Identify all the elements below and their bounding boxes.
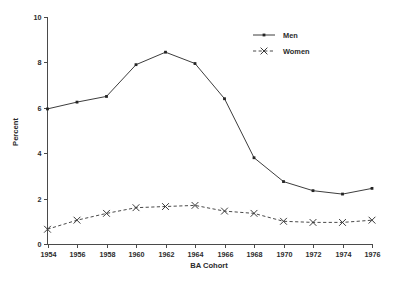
x-tick-label: 1964 — [188, 250, 204, 259]
series-line-men — [48, 52, 373, 194]
x-tick-label: 1966 — [218, 250, 234, 259]
x-tick-label: 1974 — [336, 250, 352, 259]
y-tick-label: 8 — [38, 58, 42, 67]
x-axis-title: BA Cohort — [190, 261, 228, 270]
y-axis-title: Percent — [11, 118, 20, 146]
y-tick-label: 10 — [34, 13, 42, 22]
y-tick-label: 0 — [38, 240, 42, 249]
data-point-marker — [76, 101, 79, 104]
x-tick-label: 1970 — [277, 250, 293, 259]
data-point-marker — [223, 97, 226, 100]
data-point-marker — [282, 180, 285, 183]
y-tick-label: 6 — [38, 104, 42, 113]
y-tick-label: 2 — [38, 195, 42, 204]
x-tick-label: 1958 — [100, 250, 116, 259]
data-point-marker — [194, 62, 197, 65]
y-axis-tick-labels: 0246810 — [34, 13, 42, 249]
x-tick-label: 1954 — [41, 250, 57, 259]
data-point-marker — [312, 189, 315, 192]
x-tick-label: 1972 — [306, 250, 322, 259]
data-point-marker — [253, 156, 256, 159]
series-men — [46, 51, 373, 196]
chart-legend: MenWomen — [253, 31, 310, 56]
chart-figure: 0246810 19541956195819601962196419661968… — [0, 0, 401, 286]
x-tick-label: 1962 — [159, 250, 175, 259]
y-axis-ticks — [44, 18, 48, 245]
x-axis-tick-labels: 1954195619581960196219641966196819701972… — [41, 250, 381, 259]
x-tick-label: 1968 — [247, 250, 263, 259]
data-point-marker — [341, 193, 344, 196]
data-point-marker — [46, 108, 49, 111]
series-women — [44, 202, 375, 233]
series-line-women — [48, 205, 373, 229]
legend-label-women: Women — [283, 47, 310, 56]
data-point-marker — [105, 95, 108, 98]
data-point-marker — [164, 51, 167, 54]
data-point-marker — [135, 63, 138, 66]
legend-label-men: Men — [283, 31, 298, 40]
x-tick-label: 1956 — [70, 250, 86, 259]
x-tick-label: 1976 — [365, 250, 381, 259]
data-point-marker — [263, 34, 266, 37]
x-tick-label: 1960 — [129, 250, 145, 259]
y-tick-label: 4 — [38, 149, 42, 158]
line-chart: 0246810 19541956195819601962196419661968… — [0, 0, 401, 286]
data-point-marker — [371, 187, 374, 190]
